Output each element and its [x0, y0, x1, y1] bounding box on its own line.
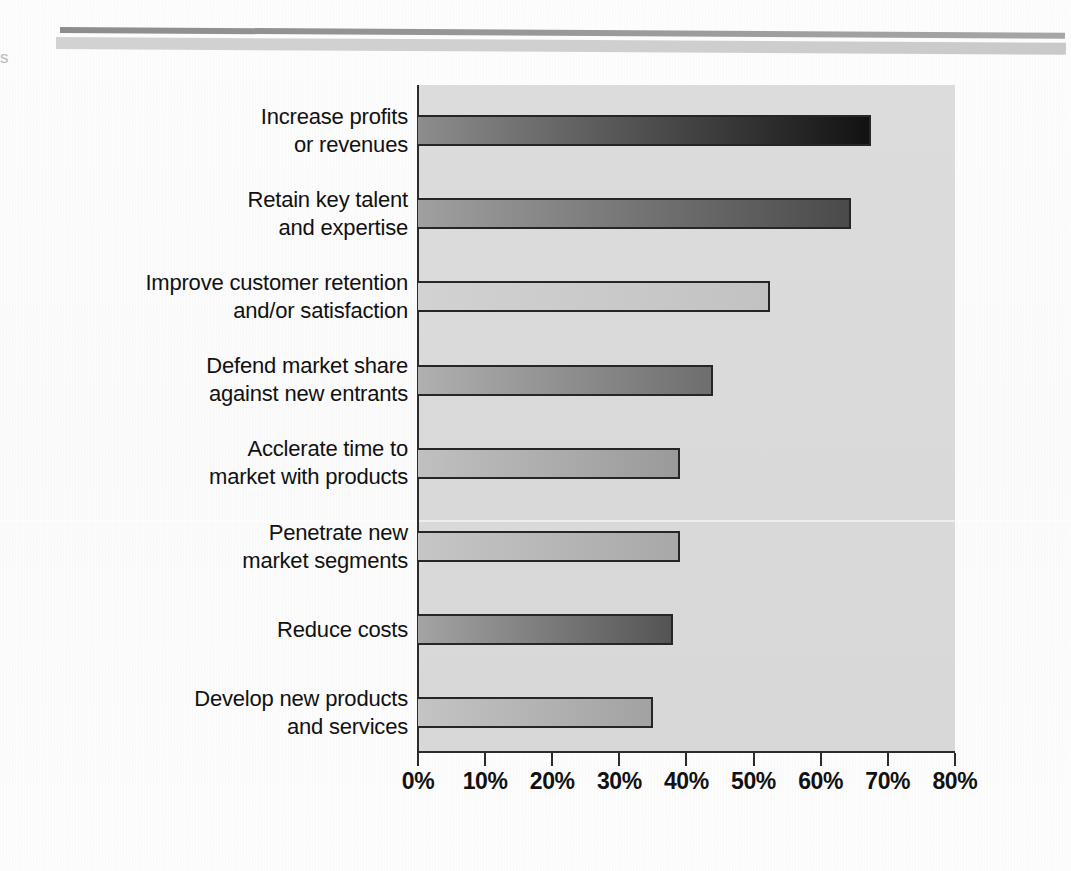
- x-axis-tick-label: 0%: [383, 768, 453, 795]
- x-axis-tick: [618, 753, 620, 766]
- x-axis-tick: [954, 753, 956, 766]
- category-label-line: or revenues: [0, 131, 408, 159]
- category-label-line: against new entrants: [0, 380, 408, 408]
- x-axis-tick-label: 50%: [719, 768, 789, 795]
- category-label-line: Acclerate time to: [0, 435, 408, 463]
- bar: [418, 531, 680, 562]
- category-label: Reduce costs: [0, 616, 408, 644]
- x-axis-tick: [753, 753, 755, 766]
- category-label-line: and expertise: [0, 214, 408, 242]
- category-label-line: Reduce costs: [0, 616, 408, 644]
- bar: [418, 697, 653, 728]
- horizontal-bar-chart: 0%10%20%30%40%50%60%70%80% Increase prof…: [0, 0, 1071, 871]
- bar: [418, 614, 673, 645]
- category-label: Increase profitsor revenues: [0, 103, 408, 159]
- bar: [418, 198, 851, 229]
- x-axis-tick-label: 10%: [450, 768, 520, 795]
- bar: [418, 281, 770, 312]
- category-label-line: market with products: [0, 463, 408, 491]
- category-label-line: Retain key talent: [0, 186, 408, 214]
- category-label-line: Defend market share: [0, 352, 408, 380]
- x-axis-tick-label: 60%: [786, 768, 856, 795]
- bar: [418, 115, 871, 146]
- category-label-line: Improve customer retention: [0, 269, 408, 297]
- x-axis-tick-label: 20%: [517, 768, 587, 795]
- category-label-line: and/or satisfaction: [0, 297, 408, 325]
- bar: [418, 448, 680, 479]
- category-label-line: Develop new products: [0, 685, 408, 713]
- category-label: Develop new productsand services: [0, 685, 408, 741]
- category-label: Improve customer retentionand/or satisfa…: [0, 269, 408, 325]
- x-axis-tick: [551, 753, 553, 766]
- x-axis-tick-label: 80%: [920, 768, 990, 795]
- category-label-line: Increase profits: [0, 103, 408, 131]
- x-axis-tick-label: 30%: [584, 768, 654, 795]
- x-axis-tick-label: 40%: [651, 768, 721, 795]
- bar: [418, 365, 713, 396]
- plot-area: [418, 85, 955, 752]
- x-axis-tick-label: 70%: [853, 768, 923, 795]
- x-axis-tick: [484, 753, 486, 766]
- category-label: Acclerate time tomarket with products: [0, 435, 408, 491]
- category-label: Penetrate newmarket segments: [0, 519, 408, 575]
- x-axis-tick: [417, 753, 419, 766]
- category-label-line: and services: [0, 713, 408, 741]
- category-label: Defend market shareagainst new entrants: [0, 352, 408, 408]
- category-label-line: market segments: [0, 547, 408, 575]
- x-axis-tick: [685, 753, 687, 766]
- x-axis-tick: [820, 753, 822, 766]
- category-label-line: Penetrate new: [0, 519, 408, 547]
- category-label: Retain key talentand expertise: [0, 186, 408, 242]
- x-axis-tick: [887, 753, 889, 766]
- y-axis-line: [417, 85, 419, 753]
